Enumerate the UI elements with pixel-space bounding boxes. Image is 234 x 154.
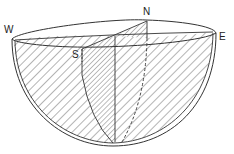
label-south: S	[72, 49, 79, 60]
hemisphere-diagram: N S E W	[0, 0, 234, 154]
label-west: W	[4, 24, 14, 35]
label-east: E	[219, 31, 226, 42]
east-hatched-section	[115, 32, 213, 142]
label-north: N	[143, 6, 150, 17]
